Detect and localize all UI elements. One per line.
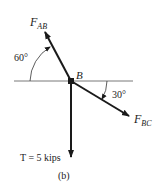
label-angle-60: 60° bbox=[14, 52, 28, 63]
point-b-marker bbox=[68, 78, 74, 84]
diagram-svg: B FAB FBC T = 5 kips 60° 30° (b) bbox=[0, 0, 157, 187]
caption: (b) bbox=[58, 170, 70, 182]
label-fab: FAB bbox=[29, 15, 47, 31]
angle-arc-60 bbox=[30, 47, 50, 81]
label-tension: T = 5 kips bbox=[20, 152, 61, 163]
label-fbc: FBC bbox=[133, 112, 152, 128]
label-point-b: B bbox=[76, 69, 83, 81]
label-angle-30: 30° bbox=[112, 89, 126, 100]
force-arrow-fab bbox=[45, 32, 71, 81]
angle-arc-30 bbox=[102, 81, 107, 99]
free-body-diagram: B FAB FBC T = 5 kips 60° 30° (b) bbox=[0, 0, 157, 187]
